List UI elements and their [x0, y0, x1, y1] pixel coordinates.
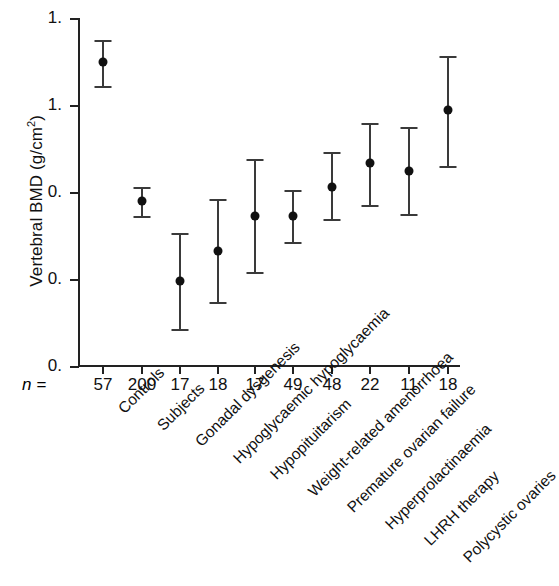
data-point-marker — [366, 159, 375, 168]
error-bar-cap-lower — [401, 214, 418, 216]
error-bar-cap-upper — [247, 159, 264, 161]
y-axis-tick-label: 1. — [2, 9, 62, 26]
x-axis-tick — [217, 365, 219, 374]
x-axis-category-label: Subjects — [154, 421, 167, 434]
error-bar-cap-upper — [401, 127, 418, 129]
data-point-marker — [99, 58, 108, 67]
x-axis-tick — [369, 365, 371, 374]
error-bar-cap-lower — [172, 329, 189, 331]
error-bar-cap-lower — [285, 242, 302, 244]
data-point-marker — [405, 167, 414, 176]
x-axis-tick — [408, 365, 410, 374]
x-axis-category-labels: ControlsSubjectsGonadal dysgenesisHypogl… — [0, 396, 470, 586]
data-point-marker — [176, 277, 185, 286]
error-bar-cap-upper — [172, 233, 189, 235]
sample-size-prefix-italic-n: n = — [22, 375, 46, 394]
y-axis-tick — [70, 192, 79, 194]
error-bar-cap-lower — [134, 216, 151, 218]
error-bar-cap-lower — [362, 205, 379, 207]
data-point-marker — [214, 247, 223, 256]
x-axis-category-label: LHRH therapy — [421, 537, 434, 550]
data-point-marker — [251, 212, 260, 221]
error-bar-cap-upper — [134, 187, 151, 189]
x-axis-tick — [292, 365, 294, 374]
x-axis-tick — [102, 365, 104, 374]
x-axis-category-label: Hyperprolactinaemia — [382, 520, 395, 533]
y-axis-tick-label: 0. — [2, 183, 62, 200]
x-axis-category-label: Hypoglycaemic hypoglycaemia — [230, 454, 243, 467]
x-axis-category-label: Polycystic ovaries — [460, 553, 473, 566]
error-bar-cap-upper — [210, 199, 227, 201]
x-axis-category-label: Hypopituitarism — [267, 471, 280, 484]
error-bar-cap-lower — [324, 219, 341, 221]
y-axis-title: Vertebral BMD (g/cm2) — [25, 41, 47, 361]
y-axis-tick — [70, 366, 79, 368]
error-bar-cap-upper — [285, 190, 302, 192]
data-point-marker — [328, 183, 337, 192]
y-axis-tick — [70, 279, 79, 281]
error-bar-cap-upper — [95, 40, 112, 42]
error-bar-cap-lower — [440, 166, 457, 168]
y-axis-title-exponent: 2 — [25, 121, 37, 127]
sample-size-prefix: n = — [22, 375, 46, 395]
x-axis-category-label: Controls — [115, 405, 128, 418]
error-bar-cap-lower — [247, 272, 264, 274]
y-axis-tick-label: 0. — [2, 270, 62, 287]
x-axis-category-label: Premature ovarian failure — [344, 504, 357, 517]
data-point-marker — [138, 197, 147, 206]
error-bar-cap-upper — [324, 152, 341, 154]
y-axis-title-suffix: ) — [27, 115, 46, 121]
x-axis-category-label: Weight-related amenorrhoea — [305, 487, 318, 500]
y-axis-tick — [70, 18, 79, 20]
x-axis-tick — [179, 365, 181, 374]
y-axis-tick-label: 0. — [2, 357, 62, 374]
error-bar-cap-lower — [95, 86, 112, 88]
error-bar-cap-upper — [362, 123, 379, 125]
y-axis-title-text: Vertebral BMD (g/cm — [27, 127, 46, 287]
x-axis-tick — [141, 365, 143, 374]
data-point-marker — [444, 106, 453, 115]
y-axis-tick — [70, 105, 79, 107]
y-axis-tick-label: 1. — [2, 96, 62, 113]
error-bar-cap-lower — [210, 302, 227, 304]
data-point-marker — [289, 212, 298, 221]
plot-area: 1.1.0.0.0. — [78, 18, 460, 366]
error-bar-cap-upper — [440, 56, 457, 58]
x-axis-category-label: Gonadal dysgenesis — [192, 438, 205, 451]
